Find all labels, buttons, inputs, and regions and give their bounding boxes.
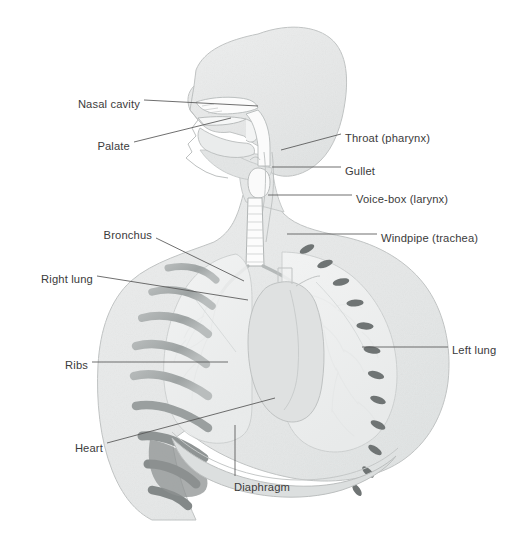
label-nasal-cavity: Nasal cavity — [78, 98, 140, 110]
respiratory-diagram: Nasal cavity Palate Throat (pharynx) Gul… — [0, 0, 515, 540]
larynx-shape — [248, 168, 270, 198]
label-diaphragm: Diaphragm — [234, 481, 290, 493]
label-windpipe: Windpipe (trachea) — [381, 232, 478, 244]
label-right-lung: Right lung — [41, 273, 93, 285]
label-ribs: Ribs — [65, 359, 88, 371]
label-gullet: Gullet — [345, 165, 376, 177]
label-palate: Palate — [97, 140, 130, 152]
label-bronchus: Bronchus — [104, 229, 153, 241]
trachea-shape — [246, 198, 264, 266]
label-voice-box: Voice-box (larynx) — [356, 193, 448, 205]
label-left-lung: Left lung — [452, 344, 496, 356]
label-heart: Heart — [75, 442, 104, 454]
anatomy-figure: Nasal cavity Palate Throat (pharynx) Gul… — [0, 0, 515, 540]
label-throat: Throat (pharynx) — [345, 132, 430, 144]
